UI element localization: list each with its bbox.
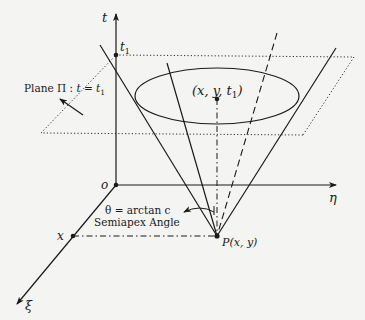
t1-point <box>114 53 119 58</box>
origin-point <box>114 183 119 188</box>
angle-formula: θ = arctan c <box>105 204 171 216</box>
x-point <box>71 234 76 239</box>
t-axis-label: t <box>102 10 108 25</box>
cone-diagram: t η ξ o t1 Plane Π : t = t1 (x, y, t1) x… <box>0 0 365 320</box>
center-label: (x, y, t1) <box>192 83 243 100</box>
plane-label: Plane Π : t = t1 <box>24 82 105 97</box>
apex-point <box>214 233 219 238</box>
angle-caption: Semiapex Angle <box>94 216 180 228</box>
plane-normal-arrow <box>60 99 83 115</box>
xi-axis <box>17 185 116 304</box>
origin-label: o <box>101 178 108 192</box>
xi-axis-label: ξ <box>25 298 33 313</box>
eta-axis-label: η <box>329 190 337 205</box>
t1-label: t1 <box>120 40 130 56</box>
apex-label: P(x, y) <box>221 236 257 249</box>
x-label: x <box>57 229 64 243</box>
